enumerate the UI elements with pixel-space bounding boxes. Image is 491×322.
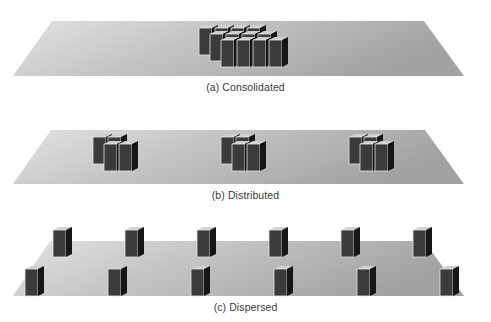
server-tower-icon <box>413 227 432 257</box>
server-tower-icon <box>440 266 459 296</box>
server-tower-icon <box>108 266 127 296</box>
server-tower-icon <box>357 266 376 296</box>
caption-dispersed: (c) Dispersed <box>0 301 491 313</box>
server-tower-icon <box>269 227 288 257</box>
dispersed-diagram <box>0 0 491 322</box>
server-tower-icon <box>53 227 72 257</box>
server-tower-icon <box>191 266 210 296</box>
server-tower-icon <box>341 227 360 257</box>
server-tower-icon <box>25 266 44 296</box>
server-tower-icon <box>274 266 293 296</box>
panel-dispersed: (c) Dispersed <box>0 0 491 322</box>
floor-plane <box>13 241 464 296</box>
server-tower-icon <box>125 227 144 257</box>
server-tower-icon <box>197 227 216 257</box>
